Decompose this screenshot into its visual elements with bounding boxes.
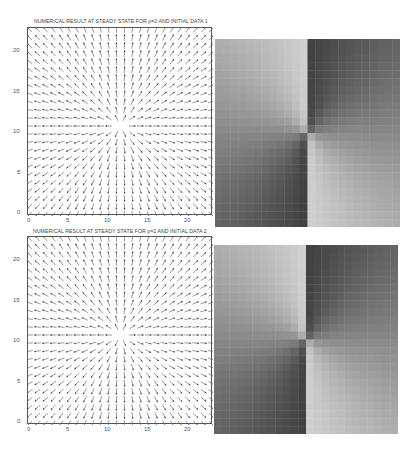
heatmap-cell xyxy=(292,47,300,55)
heatmap-cell xyxy=(337,245,345,253)
ytick-5: 5 xyxy=(17,378,20,384)
heatmap-cell xyxy=(230,141,238,149)
ytick-20: 20 xyxy=(13,256,20,262)
heatmap-cell xyxy=(344,292,352,300)
heatmap-cell xyxy=(223,117,231,125)
heatmap-cell xyxy=(269,172,277,180)
heatmap-cell xyxy=(315,172,323,180)
arrowhead-icon xyxy=(97,125,99,127)
heatmap-cell xyxy=(385,180,393,188)
vector-arrow xyxy=(75,420,78,425)
heatmap-cell xyxy=(246,204,254,212)
heatmap-cell xyxy=(222,269,230,277)
heatmap-cell xyxy=(261,94,269,102)
heatmap-cell xyxy=(377,219,385,227)
heatmap-cell xyxy=(283,426,291,434)
heatmap-cell xyxy=(377,55,385,63)
heatmap-cell xyxy=(292,78,300,86)
heatmap-cell xyxy=(321,426,329,434)
heatmap-cell xyxy=(323,47,331,55)
heatmap-cell xyxy=(344,395,352,403)
heatmap-cell xyxy=(308,63,316,71)
vector-arrow xyxy=(209,261,213,265)
heatmap-cell xyxy=(361,55,369,63)
vector-arrow xyxy=(51,237,55,241)
heatmap-cell xyxy=(277,70,285,78)
heatmap-cell xyxy=(337,261,345,269)
heatmap-cell xyxy=(291,292,299,300)
heatmap-cell xyxy=(291,284,299,292)
heatmap-cell xyxy=(331,172,339,180)
heatmap-cell xyxy=(275,418,283,426)
heatmap-cell xyxy=(298,245,306,253)
arrowhead-icon xyxy=(58,125,60,127)
heatmap-cell xyxy=(260,300,268,308)
heatmap-cell xyxy=(308,39,316,47)
heatmap-cell xyxy=(367,316,375,324)
heatmap-cell xyxy=(238,219,246,227)
heatmap-cell xyxy=(268,253,276,261)
heatmap-cell xyxy=(291,308,299,316)
heatmap-cell xyxy=(377,63,385,71)
heatmap-cell xyxy=(261,63,269,71)
vector-arrow xyxy=(186,212,190,216)
heatmap-cell xyxy=(375,387,383,395)
heatmap-cell xyxy=(269,188,277,196)
heatmap-cell xyxy=(360,300,368,308)
heatmap-cell xyxy=(252,371,260,379)
ytick-20: 20 xyxy=(13,47,20,53)
arrowhead-icon xyxy=(148,42,150,44)
heatmap-cell xyxy=(352,371,360,379)
heatmap-cell xyxy=(254,70,262,78)
heatmap-cell xyxy=(346,102,354,110)
heatmap-cell xyxy=(283,332,291,340)
heatmap-cell xyxy=(277,63,285,71)
heatmap-cell xyxy=(277,196,285,204)
heatmap-cell xyxy=(275,340,283,348)
heatmap-cell xyxy=(361,180,369,188)
heatmap-cell xyxy=(215,149,223,157)
heatmap-cell xyxy=(308,219,316,227)
vector-arrow xyxy=(28,374,33,377)
arrowhead-icon xyxy=(74,334,76,336)
heatmap-cell xyxy=(360,363,368,371)
heatmap-cell xyxy=(292,39,300,47)
heatmap-cell xyxy=(223,125,231,133)
heatmap-cell xyxy=(261,196,269,204)
heatmap-cell xyxy=(283,269,291,277)
heatmap-cell xyxy=(390,253,398,261)
heatmap-cell xyxy=(338,219,346,227)
heatmap-cell xyxy=(323,39,331,47)
heatmap-cell xyxy=(229,253,237,261)
vector-arrow xyxy=(140,211,142,216)
heatmap-cell xyxy=(315,141,323,149)
heatmap-cell xyxy=(321,395,329,403)
heatmap-cell xyxy=(238,180,246,188)
heatmap-cell xyxy=(360,418,368,426)
heatmap-cell xyxy=(344,410,352,418)
heatmap-cell xyxy=(245,340,253,348)
heatmap-cell xyxy=(352,395,360,403)
heatmap-cell xyxy=(300,133,308,141)
heatmap-cell xyxy=(292,188,300,196)
heatmap-cell xyxy=(390,395,398,403)
heatmap-cell xyxy=(321,284,329,292)
vector-arrow xyxy=(51,421,55,425)
vector-arrow xyxy=(178,237,182,241)
heatmap-cell xyxy=(246,102,254,110)
heatmap-cell xyxy=(361,94,369,102)
heatmap-cell xyxy=(230,204,238,212)
vector-arrow xyxy=(28,93,33,95)
vector-arrow xyxy=(186,237,190,241)
heatmap-cell xyxy=(323,141,331,149)
heatmap-cell xyxy=(323,149,331,157)
vector-arrow xyxy=(132,420,133,425)
heatmap-cell xyxy=(222,355,230,363)
heatmap-cell xyxy=(284,70,292,78)
heatmap-cell xyxy=(337,426,345,434)
heatmap-cell xyxy=(300,55,308,63)
heatmap-cell xyxy=(260,410,268,418)
heatmap-cell xyxy=(329,347,337,355)
heatmap-cell xyxy=(214,269,222,277)
heatmap-cell xyxy=(308,78,316,86)
